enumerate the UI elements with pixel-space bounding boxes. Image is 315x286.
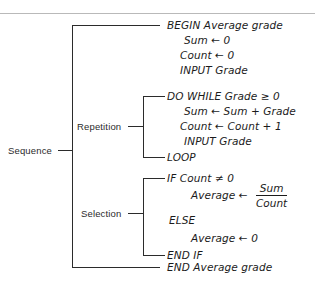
selection-label: Selection [81, 208, 121, 219]
repetition-bracket-top-arm [143, 96, 165, 97]
code-line-do-while: DO WHILE Grade ≥ 0 [167, 90, 280, 102]
repetition-label-connector [128, 126, 143, 127]
sequence-bracket-vertical [72, 25, 73, 268]
code-line-end-if: END IF [167, 249, 203, 261]
code-line-average-zero: Average ← 0 [191, 232, 258, 244]
code-line-sum-accumulate: Sum ← Sum + Grade [184, 105, 296, 117]
code-line-loop: LOOP [167, 151, 196, 163]
top-divider-rule [0, 13, 315, 14]
code-line-average-assign: Average ← [191, 189, 248, 201]
sequence-bracket-bottom-arm [72, 267, 160, 268]
repetition-bracket-bottom-arm [143, 157, 165, 158]
code-line-if-count: IF Count ≠ 0 [167, 172, 234, 184]
fraction-bar [256, 195, 287, 196]
code-line-input-grade-1: INPUT Grade [180, 64, 248, 76]
code-line-begin: BEGIN Average grade [167, 19, 283, 31]
code-line-count-accumulate: Count ← Count + 1 [180, 120, 282, 132]
fraction-numerator: Sum [256, 182, 287, 194]
repetition-label: Repetition [77, 121, 121, 132]
code-line-input-grade-2: INPUT Grade [184, 135, 252, 147]
selection-bracket-bottom-arm [143, 255, 165, 256]
code-line-end: END Average grade [167, 261, 272, 273]
pseudocode-structure-diagram: Sequence Repetition Selection BEGIN Aver… [0, 0, 315, 286]
repetition-bracket-vertical [143, 96, 144, 158]
code-line-sum-init: Sum ← 0 [184, 34, 230, 46]
selection-bracket-vertical [143, 178, 144, 256]
sequence-label: Sequence [8, 145, 52, 156]
sequence-bracket-top-arm [72, 25, 160, 26]
selection-bracket-top-arm [143, 178, 165, 179]
average-fraction: Sum Count [256, 182, 287, 209]
fraction-denominator: Count [256, 197, 287, 209]
code-line-else: ELSE [169, 214, 195, 226]
sequence-label-connector [58, 150, 73, 151]
selection-label-connector [128, 213, 143, 214]
code-line-count-init: Count ← 0 [180, 49, 234, 61]
